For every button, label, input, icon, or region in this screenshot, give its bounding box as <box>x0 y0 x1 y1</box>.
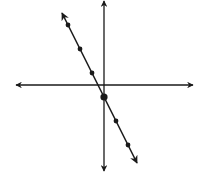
coordinate-graph <box>0 0 201 176</box>
data-point <box>66 23 71 28</box>
data-point <box>78 47 83 52</box>
axes <box>16 1 193 171</box>
plotted-line <box>62 13 137 163</box>
y-intercept-point <box>100 93 107 100</box>
data-point <box>90 71 95 76</box>
data-point <box>114 119 119 124</box>
line-y-equals-neg2x-minus1 <box>62 13 137 163</box>
data-point <box>126 143 131 148</box>
